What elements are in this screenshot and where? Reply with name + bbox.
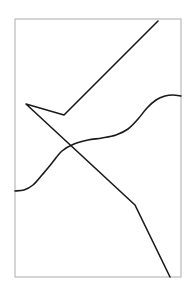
- figure-container: [0, 0, 196, 287]
- figure-background: [0, 0, 196, 287]
- line-figure-canvas: [0, 0, 196, 287]
